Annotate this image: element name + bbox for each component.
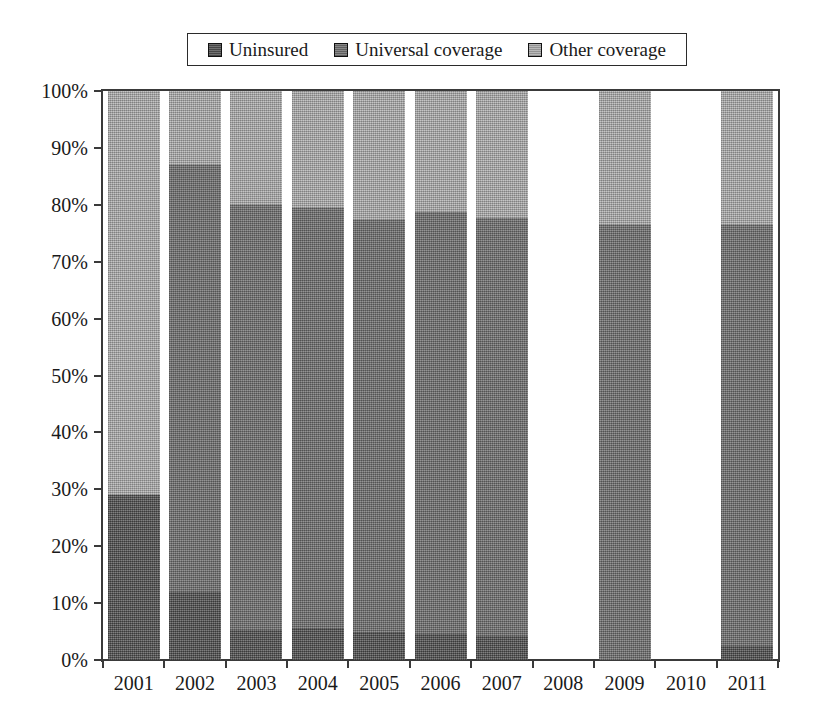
y-axis-tick-label: 60% (32, 309, 88, 329)
bar-group-2002 (169, 91, 221, 660)
bar-group-2009 (599, 91, 651, 660)
x-axis-tick-label-2006: 2006 (406, 672, 476, 694)
bar-group-2003 (230, 91, 282, 660)
legend-swatch-uninsured (208, 43, 222, 57)
legend-swatch-other-coverage (528, 43, 542, 57)
y-axis-tick-mark (94, 431, 102, 433)
y-axis-tick-mark (94, 147, 102, 149)
legend-swatch-universal-coverage (334, 43, 348, 57)
y-axis-tick-label: 0% (32, 650, 88, 670)
bar-group-2001 (108, 91, 160, 660)
bar-group-2011 (721, 91, 773, 660)
x-axis-tick-label-2007: 2007 (467, 672, 537, 694)
bar-segment-universal-coverage-2005 (353, 220, 405, 633)
bar-segment-uninsured-2007 (476, 636, 528, 660)
y-axis-tick-mark (94, 204, 102, 206)
x-axis-tick-mark (286, 660, 288, 668)
x-axis-tick-mark (532, 660, 534, 668)
bar-segment-universal-coverage-2002 (169, 165, 221, 592)
legend-item-other-coverage: Other coverage (528, 40, 666, 59)
bar-segment-universal-coverage-2009 (599, 225, 651, 660)
x-axis-tick-label-2001: 2001 (99, 672, 169, 694)
x-axis-tick-mark (163, 660, 165, 668)
x-axis-tick-label-2010: 2010 (651, 672, 721, 694)
x-axis-tick-mark (654, 660, 656, 668)
bar-segment-other-coverage-2004 (292, 91, 344, 208)
y-axis-tick-label: 80% (32, 195, 88, 215)
bar-group-2006 (415, 91, 467, 660)
x-axis-tick-mark (716, 660, 718, 668)
bar-segment-other-coverage-2007 (476, 91, 528, 218)
bar-segment-universal-coverage-2006 (415, 212, 467, 634)
x-axis-tick-mark (409, 660, 411, 668)
bar-segment-uninsured-2003 (230, 630, 282, 660)
x-axis-tick-mark (593, 660, 595, 668)
bar-segment-uninsured-2006 (415, 634, 467, 660)
bar-group-2004 (292, 91, 344, 660)
bar-group-2008 (537, 91, 589, 660)
legend-item-uninsured: Uninsured (208, 40, 308, 59)
x-axis-tick-label-2009: 2009 (590, 672, 660, 694)
y-axis-tick-mark (94, 488, 102, 490)
bar-segment-uninsured-2005 (353, 633, 405, 660)
y-axis-tick-label: 90% (32, 138, 88, 158)
y-axis-tick-label: 70% (32, 252, 88, 272)
x-axis-tick-mark (225, 660, 227, 668)
x-axis-tick-label-2008: 2008 (528, 672, 598, 694)
bar-segment-other-coverage-2001 (108, 91, 160, 495)
bar-segment-uninsured-2004 (292, 629, 344, 660)
bar-group-2005 (353, 91, 405, 660)
y-axis-tick-mark (94, 90, 102, 92)
y-axis-tick-label: 10% (32, 593, 88, 613)
bar-segment-universal-coverage-2004 (292, 208, 344, 628)
x-axis-tick-mark (470, 660, 472, 668)
stacked-bar-chart: Uninsured Universal coverage Other cover… (0, 0, 831, 727)
bar-segment-uninsured-2001 (108, 495, 160, 660)
y-axis-labels: 100%90%80%70%60%50%40%30%20%10%0% (25, 0, 88, 727)
bar-segment-uninsured-2011 (721, 646, 773, 660)
y-axis-tick-label: 100% (32, 81, 88, 101)
x-axis-tick-label-2002: 2002 (160, 672, 230, 694)
y-axis-tick-mark (94, 545, 102, 547)
plot-area (103, 91, 778, 660)
legend-label-universal-coverage: Universal coverage (355, 40, 502, 59)
bar-segment-universal-coverage-2011 (721, 225, 773, 646)
y-axis-tick-label: 30% (32, 479, 88, 499)
chart-legend: Uninsured Universal coverage Other cover… (187, 33, 687, 66)
y-axis-tick-mark (94, 318, 102, 320)
bar-segment-other-coverage-2009 (599, 91, 651, 225)
bar-segment-other-coverage-2006 (415, 91, 467, 212)
x-axis-tick-label-2003: 2003 (221, 672, 291, 694)
x-axis-tick-label-2011: 2011 (712, 672, 782, 694)
x-axis-tick-label-2004: 2004 (283, 672, 353, 694)
bar-segment-other-coverage-2003 (230, 91, 282, 205)
x-axis-tick-mark (777, 660, 779, 668)
bar-segment-other-coverage-2011 (721, 91, 773, 225)
y-axis-tick-mark (94, 602, 102, 604)
bar-segment-universal-coverage-2007 (476, 218, 528, 636)
y-axis-tick-mark (94, 375, 102, 377)
bar-segment-uninsured-2002 (169, 592, 221, 660)
x-axis-tick-label-2005: 2005 (344, 672, 414, 694)
y-axis-tick-label: 20% (32, 536, 88, 556)
x-axis-tick-mark (347, 660, 349, 668)
bar-group-2007 (476, 91, 528, 660)
bar-group-2010 (660, 91, 712, 660)
y-axis-tick-mark (94, 261, 102, 263)
bar-segment-other-coverage-2002 (169, 91, 221, 165)
legend-label-uninsured: Uninsured (229, 40, 308, 59)
legend-item-universal-coverage: Universal coverage (334, 40, 502, 59)
legend-label-other-coverage: Other coverage (549, 40, 666, 59)
bar-segment-other-coverage-2005 (353, 91, 405, 220)
y-axis-tick-label: 50% (32, 366, 88, 386)
plot-right-border (778, 89, 780, 662)
y-axis-tick-label: 40% (32, 422, 88, 442)
y-axis-tick-mark (94, 659, 102, 661)
bar-segment-universal-coverage-2003 (230, 205, 282, 630)
x-axis-tick-mark (102, 660, 104, 668)
